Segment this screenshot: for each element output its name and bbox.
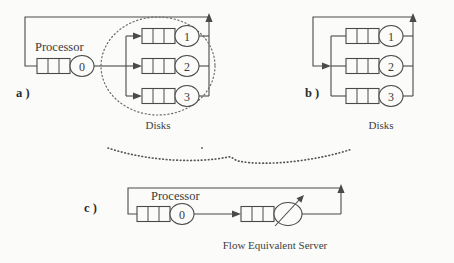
panel-b-disk-row-3: 3 xyxy=(331,86,413,107)
panel-a-disk-3-node-number: 3 xyxy=(184,90,190,104)
panel-b-disk-2-queue xyxy=(346,59,379,74)
panel-a-disk-3-arrowhead xyxy=(133,93,142,100)
panel-a-return-collector xyxy=(205,13,212,96)
panel-a-disk-1-arrowhead xyxy=(133,33,142,40)
panel-a-disk-3-queue xyxy=(142,89,175,104)
panel-b-disk-1-node-number: 1 xyxy=(388,30,394,44)
panel-b-disk-1-queue xyxy=(346,29,379,44)
panel-b-disk-2-node-number: 2 xyxy=(388,60,394,74)
panel-b-label: b ) xyxy=(305,86,319,100)
panel-c-label: c ) xyxy=(84,201,97,215)
panel-b: 1 2 3 xyxy=(305,13,417,131)
panel-a-processor-queue xyxy=(37,59,70,74)
panel-c-fes-queue xyxy=(241,207,274,222)
panel-a-processor-label: Processor xyxy=(35,40,84,54)
panel-a-processor-node-number: 0 xyxy=(79,60,85,74)
panel-b-disk-3-node-number: 3 xyxy=(388,90,394,104)
flow-equivalent-server-symbol xyxy=(274,195,304,226)
panel-c: Processor 0 xyxy=(84,184,345,251)
queueing-network-diagram: Processor 0 1 xyxy=(0,0,454,263)
section-separator xyxy=(108,147,352,163)
panel-a-disks-caption: Disks xyxy=(145,119,170,131)
panel-c-processor-node-number: 0 xyxy=(179,208,185,222)
panel-b-disk-row-2: 2 xyxy=(331,56,413,77)
panel-a-disk-row-3: 3 xyxy=(126,86,209,107)
panel-a-disk-1-queue xyxy=(142,29,175,44)
panel-b-input-arrowhead xyxy=(322,63,331,70)
panel-b-disk-3-queue xyxy=(346,89,379,104)
panel-a-disk-2-node-number: 2 xyxy=(184,60,190,74)
panel-b-disk-row-1: 1 xyxy=(331,26,413,47)
panel-b-disks-caption: Disks xyxy=(368,119,393,131)
panel-a-disk-row-1: 1 xyxy=(126,26,209,47)
panel-a: Processor 0 1 xyxy=(16,13,215,131)
separator-stray-dot xyxy=(201,147,203,149)
panel-a-disk-row-2: 2 xyxy=(126,56,209,77)
flow-equivalent-server-caption: Flow Equivalent Server xyxy=(223,239,328,251)
panel-c-processor-queue xyxy=(137,207,170,222)
panel-c-processor-label: Processor xyxy=(151,189,200,203)
panel-c-processor-server: 0 xyxy=(170,204,194,225)
panel-a-processor-server: 0 xyxy=(70,56,94,77)
panel-a-disk-1-node-number: 1 xyxy=(184,30,190,44)
panel-a-disk-2-queue xyxy=(142,59,175,74)
panel-a-disk-2-arrowhead xyxy=(133,63,142,70)
figure-canvas: Processor 0 1 xyxy=(0,0,454,263)
panel-c-fes-input-arrowhead xyxy=(232,211,241,218)
panel-a-label: a ) xyxy=(16,86,30,100)
